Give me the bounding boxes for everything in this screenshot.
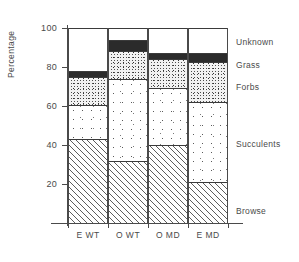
- legend: Unknown Grass Forbs Succulents Browse: [236, 0, 299, 262]
- segment-browse: [69, 139, 107, 223]
- segment-browse: [109, 161, 147, 223]
- segment-forbs: [109, 51, 147, 78]
- legend-label-browse: Browse: [236, 206, 266, 216]
- stacked-bar-chart: Percentage 100 80 60 40 20: [0, 0, 299, 262]
- plot-area: [68, 28, 228, 223]
- segment-grass: [189, 53, 227, 62]
- bar-o-md[interactable]: [148, 28, 188, 223]
- segment-browse: [189, 182, 227, 223]
- segment-succulents: [109, 79, 147, 161]
- segment-forbs: [189, 62, 227, 102]
- segment-browse: [149, 145, 187, 223]
- segment-unknown: [189, 28, 227, 53]
- segment-succulents: [189, 102, 227, 182]
- x-axis-line: [51, 223, 243, 224]
- y-tick-label-20: 20: [27, 179, 57, 189]
- x-tick-mark-2: [148, 223, 149, 228]
- segment-succulents: [69, 105, 107, 139]
- x-tick-mark-4: [228, 223, 229, 228]
- legend-label-grass: Grass: [236, 60, 260, 70]
- y-tick-label-40: 40: [27, 140, 57, 150]
- x-label-o-md: O MD: [148, 230, 188, 240]
- legend-label-forbs: Forbs: [236, 82, 259, 92]
- bar-o-wt[interactable]: [108, 28, 148, 223]
- x-label-e-wt: E WT: [68, 230, 108, 240]
- x-tick-mark-3: [188, 223, 189, 228]
- segment-forbs: [69, 77, 107, 105]
- segment-unknown: [149, 28, 187, 53]
- legend-label-unknown: Unknown: [236, 37, 274, 47]
- y-tick-label-80: 80: [27, 62, 57, 72]
- segment-forbs: [149, 59, 187, 88]
- segment-grass: [109, 40, 147, 52]
- y-axis-title: Percentage: [6, 0, 16, 78]
- legend-label-succulents: Succulents: [236, 139, 281, 149]
- x-axis-labels: E WT O WT O MD E MD: [68, 230, 228, 244]
- x-tick-mark-1: [108, 223, 109, 228]
- segment-grass: [149, 53, 187, 59]
- segment-grass: [69, 71, 107, 77]
- segment-succulents: [149, 88, 187, 145]
- x-label-e-md: E MD: [188, 230, 228, 240]
- x-tick-mark-0: [68, 223, 69, 228]
- y-tick-label-60: 60: [27, 101, 57, 111]
- x-label-o-wt: O WT: [108, 230, 148, 240]
- bar-e-md[interactable]: [188, 28, 228, 223]
- segment-unknown: [109, 28, 147, 40]
- segment-unknown: [69, 28, 107, 71]
- bar-e-wt[interactable]: [68, 28, 108, 223]
- y-tick-label-100: 100: [27, 23, 57, 33]
